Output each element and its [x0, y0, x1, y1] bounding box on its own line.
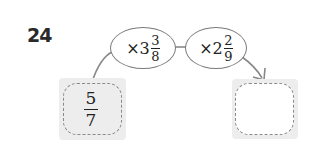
whole-part: 2: [213, 39, 223, 58]
operation-oval-1: × 3 3 8: [110, 27, 176, 69]
answer-box[interactable]: [232, 79, 298, 139]
start-fraction: 5 7: [84, 90, 98, 129]
fraction: 2 9: [224, 34, 233, 63]
whole-part: 3: [140, 39, 150, 58]
operator: ×: [199, 39, 212, 58]
operation-oval-2: × 2 2 9: [185, 27, 247, 69]
answer-input[interactable]: [235, 83, 294, 135]
start-value-box: 5 7: [59, 78, 126, 140]
fraction: 3 8: [151, 34, 160, 63]
operator: ×: [126, 39, 139, 58]
